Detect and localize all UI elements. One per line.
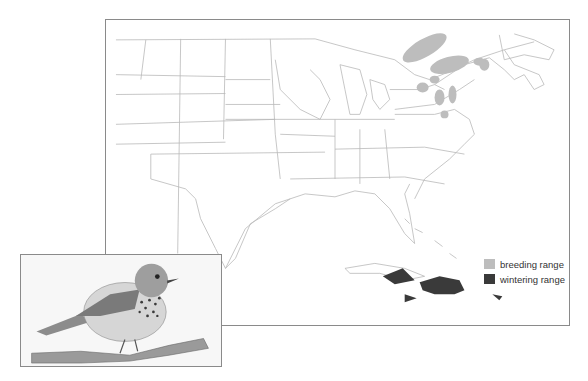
legend-item-breeding: breeding range — [484, 257, 565, 271]
breeding-swatch — [484, 259, 495, 269]
legend-label: wintering range — [500, 274, 565, 285]
bird-illustration — [20, 254, 222, 367]
legend: breeding range wintering range — [484, 257, 565, 287]
thrush-drawing — [21, 255, 221, 366]
legend-label: breeding range — [500, 259, 564, 270]
legend-item-wintering: wintering range — [484, 272, 565, 286]
wintering-swatch — [484, 274, 495, 284]
